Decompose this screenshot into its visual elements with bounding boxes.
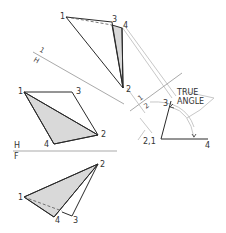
point-label-4: 4 — [44, 140, 49, 149]
point-label-4: 4 — [205, 141, 210, 150]
point-label-21: 2,1 — [143, 137, 156, 146]
point-label-4: 4 — [123, 21, 128, 30]
point-label-2: 2 — [100, 160, 105, 169]
auxiliary-view-1: 1 3 4 2 — [60, 12, 131, 94]
point-label-4: 4 — [55, 216, 60, 225]
top-view: 1 3 2 4 — [18, 87, 106, 149]
fold-label-f: F — [14, 152, 19, 161]
fold-label-h: H — [32, 56, 41, 66]
annotation-angle: ANGLE — [177, 97, 204, 106]
point-label-3: 3 — [112, 15, 117, 24]
fold-label-1: 1 — [38, 46, 46, 55]
point-label-3: 3 — [76, 87, 81, 96]
fold-label-h2: H — [14, 141, 20, 150]
auxiliary-view-2: 3 2,1 4 TRUE ANGLE — [143, 88, 210, 150]
point-label-2: 2 — [126, 85, 131, 94]
point-label-1: 1 — [60, 12, 65, 21]
point-label-1: 1 — [18, 87, 23, 96]
annotation-true: TRUE — [176, 88, 198, 97]
point-label-3: 3 — [73, 216, 78, 225]
fold-line-h-f: H F — [13, 141, 117, 161]
fold-label-2: 2 — [142, 102, 150, 111]
front-view: 1 2 4 3 — [18, 160, 105, 225]
point-label-2: 2 — [101, 130, 106, 139]
point-label-1: 1 — [18, 193, 23, 202]
projection-lines — [122, 25, 214, 140]
dihedral-angle-diagram: 1 H 1 2 H F 1 3 4 2 1 3 2 4 — [0, 0, 226, 233]
point-label-3: 3 — [163, 99, 168, 108]
